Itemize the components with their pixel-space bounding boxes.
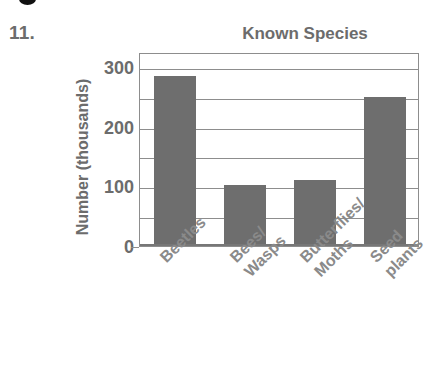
y-tick-label-100: 100	[78, 178, 134, 196]
y-tick-label-200: 200	[78, 119, 134, 137]
gridline-300	[140, 69, 418, 70]
exercise-number: 11.	[9, 22, 35, 44]
y-tick-label-0: 0	[78, 238, 134, 256]
chart-title: Known Species	[190, 24, 420, 44]
scan-artifact-dot	[19, 0, 36, 5]
y-tick-mark-0	[131, 247, 139, 248]
y-axis-tick-labels: 0100200300	[72, 53, 134, 247]
figure-container: 11. Known Species Number (thousands) 010…	[0, 0, 428, 367]
y-tick-label-300: 300	[78, 59, 134, 77]
